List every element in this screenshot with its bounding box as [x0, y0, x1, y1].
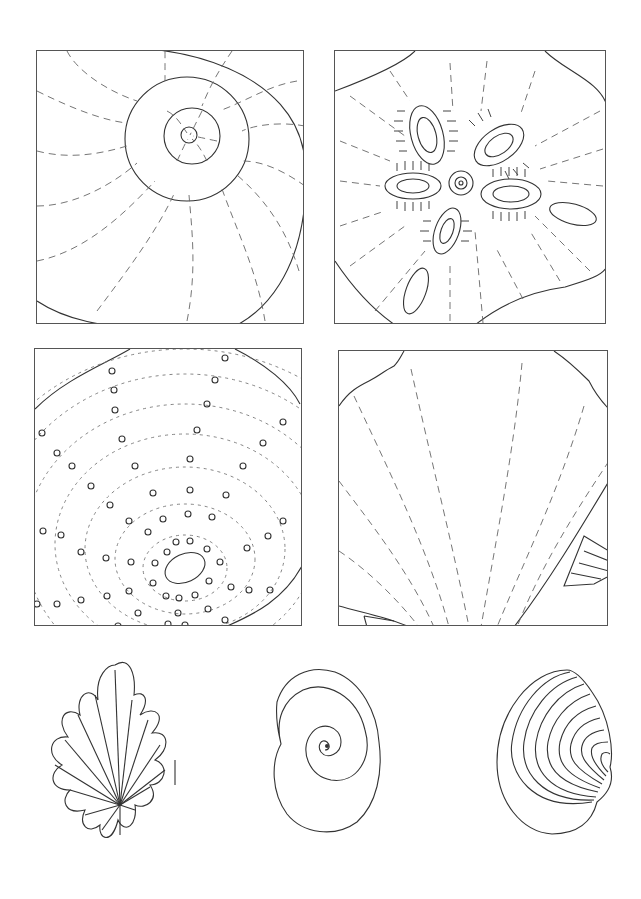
ribbed-clam-drawing [492, 662, 617, 842]
panel-sand-dollar [334, 50, 606, 324]
fluted-shell-drawing [40, 655, 180, 850]
scallop-fan-drawing [339, 351, 608, 626]
sand-dollar-drawing [335, 51, 606, 324]
panel-nautilus-spiral [36, 50, 304, 324]
nautilus-spiral-drawing [37, 51, 304, 324]
panel-scallop-fan [338, 350, 608, 626]
moon-snail-spiral-drawing [265, 662, 385, 842]
spiral-dots-drawing [35, 349, 302, 626]
panel-spiral-dots-shell [34, 348, 302, 626]
